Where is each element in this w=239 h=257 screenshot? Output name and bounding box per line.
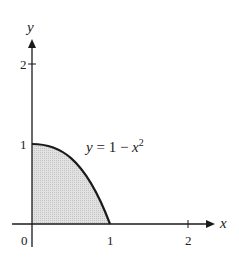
y-axis-arrow-icon [28,39,36,48]
y-axis-label: y [25,19,34,35]
shaded-region [32,144,110,224]
x-axis-label: x [219,215,227,231]
x-tick-label-2: 2 [185,233,192,248]
x-tick-label-0: 0 [21,233,28,248]
chart-canvas: 0 1 2 1 2 x y y = 1 − x2 [0,0,239,257]
y-tick-label-2: 2 [20,57,27,72]
x-tick-label-1: 1 [107,233,114,248]
y-tick-label-1: 1 [20,137,27,152]
curve-label: y = 1 − x2 [84,137,144,155]
x-axis-arrow-icon [206,220,215,228]
